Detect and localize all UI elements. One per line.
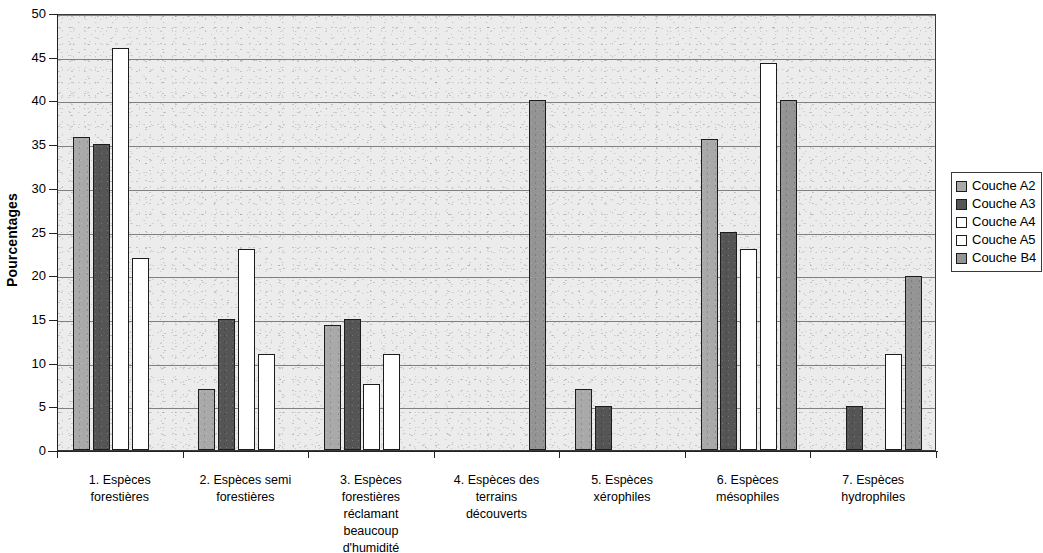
x-axis-category-label-line: 3. Espèces xyxy=(308,472,434,489)
y-axis-tick-mark xyxy=(49,14,57,15)
bar xyxy=(905,276,922,450)
legend: Couche A2Couche A3Couche A4Couche A5Couc… xyxy=(951,172,1042,272)
x-axis-category-label: 6. Espècesmésophiles xyxy=(685,472,811,506)
gridline xyxy=(58,59,935,60)
x-axis-category-label-line: forestières xyxy=(308,489,434,506)
bar xyxy=(760,63,777,450)
x-axis-category-label-line: hydrophiles xyxy=(810,489,936,506)
plot-area xyxy=(57,14,936,451)
y-axis-tick-value: 50 xyxy=(18,7,46,20)
x-axis-category-label-line: 2. Espèces semi xyxy=(183,472,309,489)
x-axis-category-label-line: xérophiles xyxy=(559,489,685,506)
legend-swatch-icon xyxy=(956,253,967,264)
legend-item-label: Couche A5 xyxy=(972,233,1036,247)
x-axis-tick-mark xyxy=(57,452,58,458)
gridline xyxy=(58,102,935,103)
y-axis-tick-value: 20 xyxy=(18,269,46,282)
y-axis-tick-label: 25 xyxy=(14,226,46,239)
x-axis-category-label-line: d'humidité xyxy=(308,540,434,553)
x-axis-category-label-line: 4. Espèces des xyxy=(434,472,560,489)
y-axis-tick-value: 25 xyxy=(18,226,46,239)
x-axis-line xyxy=(48,451,938,452)
x-axis-category-label-line: forestières xyxy=(183,489,309,506)
legend-item-a3[interactable]: Couche A3 xyxy=(956,195,1036,213)
gridline xyxy=(58,277,935,278)
x-axis-category-label-line: réclamant xyxy=(308,506,434,523)
gridline xyxy=(58,146,935,147)
x-axis-category-label-line: beaucoup xyxy=(308,523,434,540)
bar xyxy=(324,325,341,450)
legend-swatch-icon xyxy=(956,199,967,210)
legend-item-a4[interactable]: Couche A4 xyxy=(956,213,1036,231)
y-axis-tick-label: 40 xyxy=(14,94,46,107)
y-axis-tick-mark xyxy=(49,233,57,234)
legend-item-b4[interactable]: Couche B4 xyxy=(956,249,1036,267)
bar xyxy=(575,389,592,450)
bar xyxy=(93,144,110,450)
y-axis-tick-value: 30 xyxy=(18,182,46,195)
gridline xyxy=(58,365,935,366)
y-axis-tick-value: 40 xyxy=(18,94,46,107)
y-axis-tick-value: 15 xyxy=(18,313,46,326)
x-axis-tick-mark xyxy=(434,452,435,458)
x-axis-tick-mark xyxy=(559,452,560,458)
gridline xyxy=(58,408,935,409)
legend-item-label: Couche A4 xyxy=(972,215,1036,229)
bar xyxy=(529,100,546,450)
y-axis-title: Pourcentages xyxy=(0,150,24,330)
y-axis-tick-value: 35 xyxy=(18,138,46,151)
legend-item-label: Couche B4 xyxy=(972,251,1036,265)
x-axis-category-label-line: découverts xyxy=(434,506,560,523)
bar xyxy=(238,249,255,450)
bar xyxy=(218,319,235,450)
x-axis-category-label: 5. Espècesxérophiles xyxy=(559,472,685,506)
bar-chart: Pourcentages 05101520253035404550 1. Esp… xyxy=(0,0,1043,553)
y-axis-tick-label: 10 xyxy=(14,357,46,370)
x-axis-category-label: 2. Espèces semiforestières xyxy=(183,472,309,506)
legend-item-a2[interactable]: Couche A2 xyxy=(956,177,1036,195)
x-axis-category-label: 3. Espècesforestièresréclamantbeaucoupd'… xyxy=(308,472,434,553)
x-axis-category-label-line: 1. Espèces xyxy=(57,472,183,489)
bar xyxy=(595,406,612,450)
x-axis-tick-mark xyxy=(810,452,811,458)
y-axis-tick-mark xyxy=(49,189,57,190)
bar xyxy=(198,389,215,450)
gridline xyxy=(58,234,935,235)
y-axis-tick-label: 30 xyxy=(14,182,46,195)
y-axis-tick-value: 10 xyxy=(18,357,46,370)
x-axis-category-label-line: mésophiles xyxy=(685,489,811,506)
bar xyxy=(720,232,737,451)
y-axis-tick-value: 0 xyxy=(18,444,46,457)
x-axis-category-label-line: 5. Espèces xyxy=(559,472,685,489)
y-axis-tick-mark xyxy=(49,276,57,277)
y-axis-tick-mark xyxy=(49,145,57,146)
x-axis-category-label-line: terrains xyxy=(434,489,560,506)
legend-swatch-icon xyxy=(956,235,967,246)
x-axis-tick-mark xyxy=(685,452,686,458)
x-axis-category-label-line: 7. Espèces xyxy=(810,472,936,489)
y-axis-tick-mark xyxy=(49,101,57,102)
y-axis-tick-mark xyxy=(49,58,57,59)
legend-item-a5[interactable]: Couche A5 xyxy=(956,231,1036,249)
y-axis-tick-label: 20 xyxy=(14,269,46,282)
y-axis-tick-label: 50 xyxy=(14,7,46,20)
y-axis-tick-label: 35 xyxy=(14,138,46,151)
y-axis-tick-label: 0 xyxy=(14,444,46,457)
x-axis-category-label-line: 6. Espèces xyxy=(685,472,811,489)
gridline xyxy=(58,321,935,322)
x-axis-tick-mark xyxy=(308,452,309,458)
y-axis-tick-label: 15 xyxy=(14,313,46,326)
bar xyxy=(780,100,797,450)
bar xyxy=(132,258,149,450)
bar xyxy=(740,249,757,450)
x-axis-category-label-line: forestières xyxy=(57,489,183,506)
bar xyxy=(258,354,275,450)
bar xyxy=(363,384,380,450)
y-axis-tick-mark xyxy=(49,320,57,321)
y-axis-tick-mark xyxy=(49,364,57,365)
legend-item-label: Couche A3 xyxy=(972,197,1036,211)
gridline xyxy=(58,15,935,16)
bar xyxy=(112,48,129,450)
x-axis-tick-mark xyxy=(936,452,937,458)
bar xyxy=(885,354,902,450)
